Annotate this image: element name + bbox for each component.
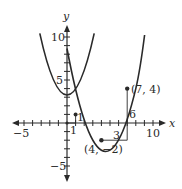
point-label-4-neg2: (4, −2) (84, 143, 123, 156)
point-label-7-4: (7, 4) (131, 83, 161, 96)
rise-label-6: 6 (129, 108, 136, 121)
run-label-3: 3 (113, 129, 120, 142)
point-origin (65, 121, 68, 124)
x-axis-label: x (169, 117, 176, 130)
y-tick-label-5: 5 (56, 74, 63, 87)
rise-label-1: 1 (77, 111, 84, 124)
point-7-4 (125, 86, 129, 90)
y-axis-arrow-down-icon (64, 175, 70, 182)
chart-canvas: y x −5 10 10 5 −5 (7, 4) (4, −2) 6 3 1 1 (0, 0, 182, 189)
y-axis-label: y (62, 10, 70, 23)
x-tick-label-neg5: −5 (13, 127, 29, 140)
point-4-neg2 (99, 138, 103, 142)
x-tick-label-10: 10 (146, 127, 160, 140)
run-label-1: 1 (70, 124, 77, 137)
y-tick-label-10: 10 (51, 31, 65, 44)
x-axis-arrow-left-icon (12, 120, 19, 126)
x-axis-arrow-right-icon (159, 120, 166, 126)
y-tick-label-neg5: −5 (50, 160, 66, 173)
